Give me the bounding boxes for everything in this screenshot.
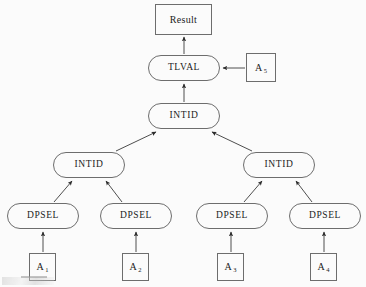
scan-artifact [2, 277, 54, 285]
node-intid-left: INTID [53, 152, 125, 178]
node-a5-label: A5 [255, 63, 267, 73]
node-a5: A5 [246, 53, 276, 82]
node-result-label: Result [170, 15, 197, 25]
edge-intid2-to-intid0 [212, 132, 252, 151]
node-intid-right-label: INTID [265, 160, 294, 170]
node-a1-label: A1 [37, 262, 49, 272]
edge-dpsel4-to-intid2 [296, 181, 312, 202]
node-tlval-label: TLVAL [168, 63, 200, 73]
node-a3: A3 [217, 253, 244, 281]
node-intid-right: INTID [243, 152, 315, 178]
node-a2: A2 [122, 253, 149, 281]
edge-dpsel2-to-intid1 [106, 181, 122, 202]
node-dpsel-2: DPSEL [100, 203, 172, 229]
node-dpsel-1: DPSEL [7, 203, 79, 229]
node-a4: A4 [310, 253, 337, 281]
node-a2-label: A2 [130, 262, 142, 272]
node-intid-left-label: INTID [75, 160, 104, 170]
node-intid-root: INTID [148, 103, 220, 129]
edge-dpsel3-to-intid2 [244, 181, 262, 202]
node-dpsel-4-label: DPSEL [309, 211, 341, 221]
node-a3-label: A3 [225, 262, 237, 272]
diagram-canvas: Result TLVAL A5 INTID INTID INTID DPSEL … [0, 0, 366, 287]
node-a4-label: A4 [318, 262, 330, 272]
node-dpsel-3: DPSEL [196, 203, 268, 229]
node-dpsel-1-label: DPSEL [27, 211, 59, 221]
node-intid-root-label: INTID [170, 111, 199, 121]
edge-dpsel1-to-intid1 [54, 181, 72, 202]
node-dpsel-4: DPSEL [289, 203, 361, 229]
node-dpsel-2-label: DPSEL [120, 211, 152, 221]
edge-intid1-to-intid0 [116, 132, 156, 151]
node-tlval: TLVAL [148, 55, 220, 81]
scan-artifact-bar [21, 276, 47, 278]
node-dpsel-3-label: DPSEL [216, 211, 248, 221]
node-result: Result [155, 4, 212, 35]
edge-layer [0, 0, 366, 287]
